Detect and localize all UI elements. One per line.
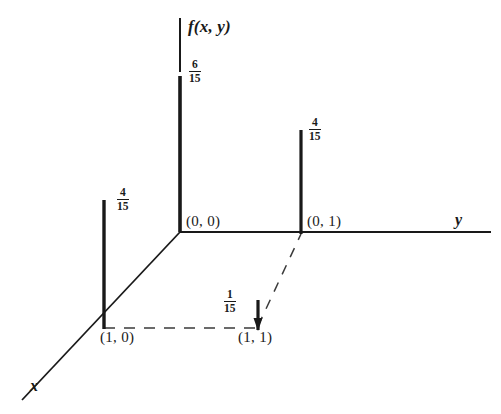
value-label-0-0: 6 15 [189,58,201,84]
coord-label-1-0: (1, 0) [100,330,134,345]
value-label-0-1-numerator: 4 [309,116,321,130]
coord-label-1-1: (1, 1) [238,330,272,345]
vertical-axis-label: f(x, y) [188,18,231,35]
y-axis-label: y [455,212,462,228]
x-axis-label: x [30,378,38,394]
value-label-1-0: 4 15 [117,186,129,212]
spike-plot-figure: f(x, y) y x (0, 0) (1, 0) (0, 1) (1, 1) … [0,0,501,414]
value-label-1-0-numerator: 4 [117,186,129,200]
value-label-0-0-denominator: 15 [189,72,201,85]
value-label-0-1: 4 15 [309,116,321,142]
value-label-1-1-denominator: 15 [224,302,236,315]
dashed-line-x1y1-to-x0y1 [258,234,301,326]
x-axis [22,232,180,400]
value-label-0-1-denominator: 15 [309,130,321,143]
value-label-1-0-denominator: 15 [117,200,129,213]
coord-label-origin: (0, 0) [186,214,220,229]
value-label-1-1: 1 15 [224,288,236,314]
value-label-0-0-numerator: 6 [189,58,201,72]
value-label-1-1-numerator: 1 [224,288,236,302]
plot-canvas [0,0,501,414]
coord-label-0-1: (0, 1) [307,214,341,229]
